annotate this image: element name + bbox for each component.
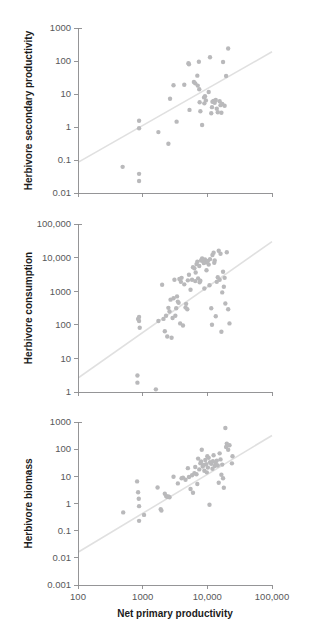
data-point: [207, 90, 211, 94]
y-tick-label: 0.001: [47, 579, 71, 590]
data-point: [137, 179, 141, 183]
data-point: [219, 330, 223, 334]
data-point: [221, 476, 225, 480]
panel-2: 110100100010,000100,000Herbivore consump…: [23, 218, 272, 397]
data-point: [179, 276, 183, 280]
y-tick-label: 0.01: [53, 552, 72, 563]
data-point: [167, 309, 171, 313]
y-tick-label: 1: [66, 498, 71, 509]
data-point: [197, 467, 201, 471]
data-point: [137, 172, 141, 176]
axis-spines: [78, 422, 272, 585]
data-point: [216, 463, 220, 467]
data-point: [121, 510, 125, 514]
y-tick-label: 10: [60, 353, 71, 364]
y-tick-label: 0.1: [58, 525, 71, 536]
data-point: [137, 315, 141, 319]
scatter-points: [135, 249, 231, 392]
data-point: [182, 83, 186, 87]
data-point: [192, 266, 196, 270]
y-tick-label: 10,000: [42, 252, 71, 263]
data-point: [207, 283, 211, 287]
data-point: [222, 104, 226, 108]
data-point: [198, 109, 202, 113]
data-point: [135, 373, 139, 377]
data-point: [195, 73, 199, 77]
data-point: [137, 519, 141, 523]
data-point: [197, 60, 201, 64]
data-point: [224, 74, 228, 78]
x-tick-label: 100: [70, 591, 86, 602]
data-point: [154, 387, 158, 391]
data-point: [155, 485, 159, 489]
data-point: [208, 55, 212, 59]
data-point: [136, 490, 140, 494]
y-tick-label: 1000: [50, 22, 71, 33]
data-point: [210, 323, 214, 327]
data-point: [197, 87, 201, 91]
y-tick-label: 0.1: [58, 154, 71, 165]
data-point: [206, 465, 210, 469]
data-point: [221, 270, 225, 274]
data-point: [204, 268, 208, 272]
data-point: [186, 466, 190, 470]
data-point: [206, 259, 210, 263]
y-tick-label: 1: [66, 386, 71, 397]
y-tick-label: 10: [60, 88, 71, 99]
data-point: [168, 97, 172, 101]
data-point: [173, 314, 177, 318]
scatter-points: [120, 46, 230, 183]
data-point: [135, 479, 139, 483]
data-point: [207, 503, 211, 507]
data-point: [222, 486, 226, 490]
data-point: [174, 119, 178, 123]
data-point: [193, 465, 197, 469]
y-tick-label: 1000: [50, 416, 71, 427]
data-point: [185, 307, 189, 311]
panel-1: 0.010.11101001000Herbivore secondary pro…: [23, 22, 272, 198]
data-point: [214, 314, 218, 318]
data-point: [218, 457, 222, 461]
x-tick-label: 10,000: [193, 591, 222, 602]
data-point: [207, 262, 211, 266]
data-point: [217, 481, 221, 485]
data-point: [214, 98, 218, 102]
panel-3: 0.0010.010.11101001000100100010,000100,0…: [23, 416, 289, 602]
data-point: [226, 46, 230, 50]
data-point: [160, 283, 164, 287]
data-point: [209, 306, 213, 310]
data-point: [191, 490, 195, 494]
data-point: [137, 126, 141, 130]
data-point: [175, 294, 179, 298]
data-point: [176, 301, 180, 305]
data-point: [193, 270, 197, 274]
data-point: [223, 301, 227, 305]
data-point: [197, 264, 201, 268]
data-point: [207, 456, 211, 460]
data-point: [203, 94, 207, 98]
data-point: [217, 277, 221, 281]
data-point: [174, 306, 178, 310]
data-point: [169, 336, 173, 340]
data-point: [163, 329, 167, 333]
data-point: [220, 290, 224, 294]
data-point: [222, 276, 226, 280]
x-tick-label: 1000: [132, 591, 153, 602]
y-tick-label: 100,000: [37, 218, 71, 229]
data-point: [156, 130, 160, 134]
data-point: [137, 319, 141, 323]
data-point: [186, 278, 190, 282]
data-point: [219, 111, 223, 115]
data-point: [188, 487, 192, 491]
y-tick-label: 100: [55, 319, 71, 330]
data-point: [204, 98, 208, 102]
data-point: [223, 426, 227, 430]
data-point: [135, 380, 139, 384]
data-point: [172, 277, 176, 281]
data-point: [199, 459, 203, 463]
data-point: [220, 462, 224, 466]
data-point: [181, 323, 185, 327]
y-axis-title: Herbivore biomass: [23, 458, 34, 548]
y-axis-title: Herbivore secondary productivity: [23, 30, 34, 190]
y-tick-label: 10: [60, 471, 71, 482]
